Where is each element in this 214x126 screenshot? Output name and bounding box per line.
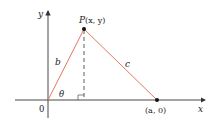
point-a-label: (a, 0) (145, 106, 166, 115)
side-c-label: c (125, 59, 130, 69)
x-axis-label: x (198, 104, 203, 114)
side-b-label: b (55, 57, 61, 67)
angle-theta-label: θ (59, 89, 64, 99)
right-angle-mark (78, 95, 84, 100)
origin-label: 0 (39, 104, 44, 114)
point-p-coords: (x, y) (85, 16, 105, 25)
side-b (48, 29, 84, 100)
triangle-diagram: y x 0 P(x, y) (a, 0) b c θ (0, 0, 214, 126)
point-a (155, 98, 159, 102)
y-axis-label: y (37, 9, 44, 19)
point-p-label: P(x, y) (78, 15, 105, 25)
side-c (84, 29, 157, 100)
point-p (82, 27, 86, 31)
